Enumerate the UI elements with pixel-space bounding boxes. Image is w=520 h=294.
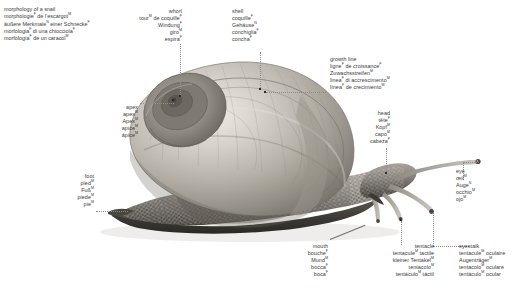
term-line: morfologíaF de un caracolM: [4, 35, 90, 42]
gender-marker: M: [464, 174, 467, 178]
term-line: tentáculoM táctil: [355, 271, 434, 278]
snail-illustration: [0, 0, 520, 294]
term-line: cabezaF: [322, 138, 390, 145]
gender-marker: F: [326, 271, 328, 275]
term-line: WindungF: [88, 22, 182, 29]
label-tentacle: tentacletentaculeM tactilekleiner Tentak…: [355, 243, 434, 278]
leader-whorl: [180, 44, 181, 97]
term-line: líneaF de crecimientoM: [330, 84, 450, 91]
label-whorl: whorltourM de coquilleFWindungFgiroMespi…: [88, 8, 182, 43]
term-line: conchaF: [232, 36, 322, 43]
gender-marker: M: [68, 13, 71, 17]
gender-marker: M: [387, 76, 390, 80]
gender-marker: F: [180, 14, 182, 18]
leader-head: [386, 148, 387, 174]
marker-growth-line: [264, 91, 266, 93]
label-mouth: mouthboucheFMundMboccaFbocaF: [278, 243, 328, 278]
label-eyestalk: eyestalktentaculeM oculaireAugenträgerMt…: [459, 243, 520, 278]
gender-marker: M: [472, 188, 475, 192]
gender-marker: M: [91, 193, 94, 197]
gender-marker: F: [180, 21, 182, 25]
gender-marker: F: [342, 62, 344, 66]
label-apex: apexapexMApexMapiceMápiceM: [92, 104, 138, 139]
gender-marker: M: [463, 196, 466, 200]
gender-marker: F: [251, 14, 253, 18]
marker-whorl: [179, 95, 181, 97]
gender-marker: M: [91, 179, 94, 183]
label-foot: footpiedMFußMpiedeMpieM: [50, 173, 94, 208]
diagram-canvas: morphology of a snailmorphologieF de l’e…: [0, 0, 520, 294]
term-line: ápiceM: [92, 132, 138, 139]
gender-marker: M: [66, 34, 69, 38]
gender-marker: F: [29, 34, 31, 38]
gender-marker: F: [379, 62, 381, 66]
gender-marker: M: [135, 110, 138, 114]
term-line: ojoM: [456, 196, 518, 203]
gender-marker: F: [34, 13, 36, 17]
gender-marker: M: [418, 271, 421, 275]
label-shell: shellcoquilleFGehäuseNconchigliaFconchaF: [232, 8, 322, 43]
gender-marker: M: [481, 263, 484, 267]
gender-marker: N: [469, 181, 472, 185]
gender-marker: M: [149, 14, 152, 18]
term-line: tentáculoM ocular: [459, 271, 520, 278]
gender-marker: M: [91, 186, 94, 190]
gender-marker: M: [387, 130, 390, 134]
gender-marker: F: [326, 249, 328, 253]
gender-marker: M: [370, 69, 373, 73]
diagram-title: morphology of a snailmorphologieF de l’e…: [4, 6, 90, 42]
gender-marker: F: [342, 76, 344, 80]
leader-tentacle: [401, 221, 402, 245]
gender-marker: M: [179, 28, 182, 32]
label-growth-line: growth lineligneF de croissanceFZuwachss…: [330, 56, 450, 91]
gender-marker: M: [481, 249, 484, 253]
marker-tentacle: [400, 219, 402, 221]
gender-marker: M: [431, 263, 434, 267]
marker-head: [385, 172, 387, 174]
gender-marker: F: [388, 116, 390, 120]
leader-apex: [140, 103, 174, 104]
gender-marker: M: [481, 271, 484, 275]
gender-marker: F: [180, 36, 182, 40]
label-head: headtêteFKopfMcapoMcabezaF: [322, 110, 390, 145]
leader-shell: [260, 52, 261, 90]
gender-marker: M: [415, 249, 418, 253]
term-line: pieM: [50, 201, 94, 208]
marker-apex: [172, 99, 174, 101]
gender-marker: M: [135, 132, 138, 136]
gender-marker: N: [254, 21, 257, 25]
term-line: espiraF: [88, 36, 182, 43]
leader-eye-h: [463, 162, 479, 163]
gender-marker: M: [489, 256, 492, 260]
gender-marker: M: [135, 124, 138, 128]
gender-marker: M: [325, 256, 328, 260]
gender-marker: F: [29, 27, 31, 31]
leader-growth-line: [266, 92, 326, 93]
gender-marker: F: [250, 36, 252, 40]
gender-marker: F: [326, 263, 328, 267]
gender-marker: M: [387, 123, 390, 127]
label-eye: eyeœilMAugeNocchioMojoM: [456, 168, 518, 203]
gender-marker: N: [46, 20, 49, 24]
gender-marker: F: [256, 28, 258, 32]
marker-shell: [259, 88, 261, 90]
gender-marker: M: [91, 201, 94, 205]
gender-marker: M: [431, 256, 434, 260]
leader-eyestalk-v: [433, 212, 434, 246]
gender-marker: M: [135, 117, 138, 121]
gender-marker: M: [382, 84, 385, 88]
gender-marker: F: [73, 27, 75, 31]
term-line: äußere MerkmaleN einer SchneckeF: [4, 21, 90, 28]
leader-foot: [96, 211, 128, 212]
gender-marker: F: [342, 84, 344, 88]
term-line: bocaF: [278, 271, 328, 278]
gender-marker: F: [388, 138, 390, 142]
